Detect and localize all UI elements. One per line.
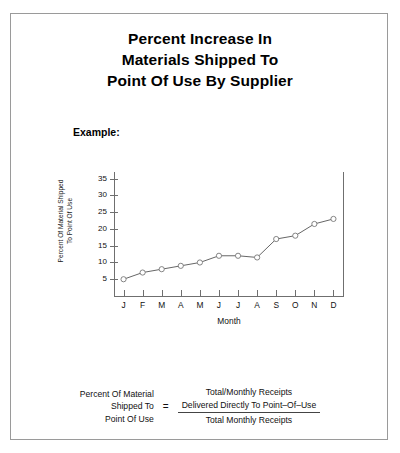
formula-equals-sign: = [161,401,171,412]
formula-definition: Percent Of Material Shipped To Point Of … [11,386,389,427]
poster-page: Percent Increase In Materials Shipped To… [0,0,400,453]
formula-left-side: Percent Of Material Shipped To Point Of … [80,388,154,426]
data-point-J [235,253,240,258]
series-line [124,219,334,279]
data-point-A [178,263,183,268]
page-title-line-3: Point Of Use By Supplier [11,70,389,91]
formula-numerator-line-2: Delivered Directly To Point–Of–Use [182,399,317,412]
example-label: Example: [73,126,120,138]
data-point-O [293,233,298,238]
page-title-line-2: Materials Shipped To [11,49,389,70]
data-point-J [216,253,221,258]
formula-left-line-2: Shipped To [80,400,154,413]
formula-numerator-line-1: Total/Monthly Receipts [182,386,317,399]
poster-frame: Percent Increase In Materials Shipped To… [10,13,388,440]
x-axis-label: Month [114,316,344,326]
page-title: Percent Increase In Materials Shipped To… [11,28,389,91]
line-chart: Percent Of Material Shipped To Point Of … [51,144,381,344]
data-point-D [331,216,336,221]
data-point-J [121,277,126,282]
data-point-A [255,255,260,260]
page-title-line-1: Percent Increase In [11,28,389,49]
data-point-M [159,267,164,272]
data-point-F [140,270,145,275]
data-point-M [197,260,202,265]
data-point-N [312,221,317,226]
formula-denominator: Total Monthly Receipts [178,413,321,427]
formula-fraction: Total/Monthly Receipts Delivered Directl… [178,386,321,427]
formula-left-line-1: Percent Of Material [80,388,154,401]
data-point-S [274,236,279,241]
data-series-plot [51,144,381,344]
formula-numerator: Total/Monthly Receipts Delivered Directl… [178,386,321,413]
formula-left-line-3: Point Of Use [80,413,154,426]
